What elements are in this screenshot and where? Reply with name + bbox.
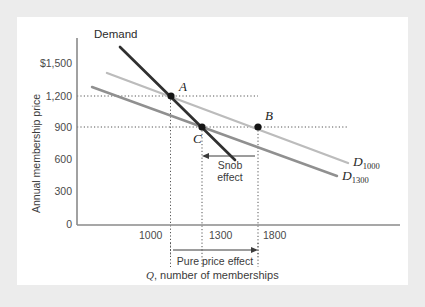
- y-tick-label-900: 900: [14, 121, 72, 133]
- x-tick-label-1000: 1000: [139, 229, 162, 241]
- point-label-c: C: [193, 131, 202, 147]
- pure-price-effect-label: Pure price effect: [157, 255, 273, 267]
- y-tick-label-600: 600: [14, 153, 72, 165]
- y-tick-label-1500: $1,500: [14, 57, 72, 69]
- point-label-b: B: [265, 108, 273, 124]
- y-tick-label-300: 300: [14, 185, 72, 197]
- demand-curve-label: Demand: [94, 28, 137, 40]
- curve-label-d1300-sub: 1300: [352, 175, 369, 185]
- snob-effect-label: Snob effect: [203, 159, 257, 183]
- chart-panel: Annual membership price $1,500 1,200 900…: [17, 17, 408, 285]
- pure-price-effect-arrow-head: [251, 247, 258, 253]
- data-point-b: [254, 123, 261, 130]
- curve-label-d1300-base: D: [342, 168, 352, 183]
- snob-effect-line2: effect: [203, 171, 257, 183]
- x-axis-title: Q, number of memberships: [146, 269, 279, 281]
- data-point-c: [198, 123, 205, 130]
- chart-plot-area: [17, 17, 408, 285]
- x-axis-title-symbol: Q: [146, 269, 154, 281]
- curve-d1000: [107, 73, 348, 163]
- data-point-a: [167, 92, 174, 99]
- point-label-a: A: [179, 79, 187, 95]
- y-tick-label-0: 0: [14, 218, 72, 230]
- curve-label-d1000-base: D: [353, 154, 363, 169]
- x-tick-label-1800: 1800: [263, 229, 286, 241]
- x-tick-label-1300: 1300: [209, 229, 232, 241]
- figure-container: Annual membership price $1,500 1,200 900…: [0, 0, 425, 307]
- y-tick-label-1200: 1,200: [14, 90, 72, 102]
- x-axis-title-rest: , number of memberships: [154, 269, 279, 281]
- snob-effect-line1: Snob: [203, 159, 257, 171]
- curve-label-d1300: D1300: [342, 168, 369, 184]
